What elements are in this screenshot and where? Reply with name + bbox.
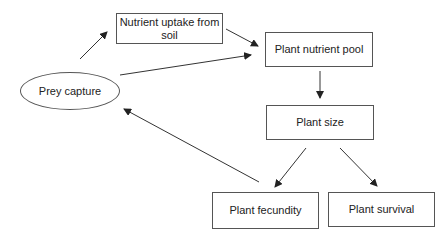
edge-fecundity-to-prey	[124, 109, 259, 182]
node-label: Prey capture	[39, 85, 101, 98]
node-label: Plant nutrient pool	[275, 43, 364, 56]
node-label: Plant survival	[349, 203, 414, 216]
edge-uptake-to-pool	[226, 29, 258, 46]
node-nutrient-uptake: Nutrient uptake from soil	[116, 13, 223, 44]
edge-prey-to-pool	[120, 55, 251, 75]
edge-size-to-survival	[340, 148, 377, 186]
node-plant-survival: Plant survival	[328, 192, 435, 227]
node-label: Plant size	[296, 116, 344, 129]
node-label: Plant fecundity	[229, 204, 301, 217]
node-label: Nutrient uptake from soil	[117, 16, 222, 42]
node-plant-fecundity: Plant fecundity	[212, 192, 319, 229]
edge-size-to-fecundity	[275, 148, 306, 187]
node-prey-capture: Prey capture	[20, 72, 120, 110]
node-plant-size: Plant size	[266, 105, 374, 140]
node-plant-nutrient-pool: Plant nutrient pool	[265, 32, 373, 67]
edge-prey-to-uptake	[80, 32, 107, 59]
